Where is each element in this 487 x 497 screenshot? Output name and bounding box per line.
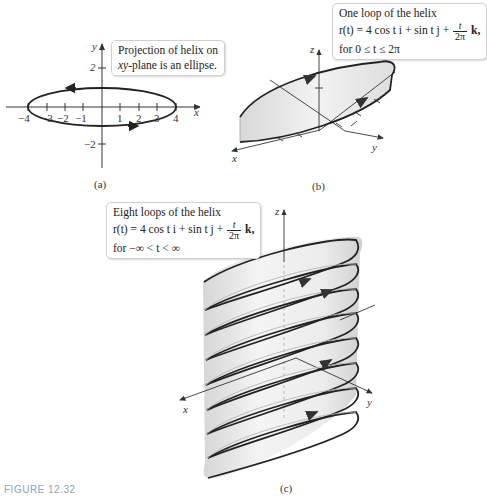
x-axis-label: x bbox=[183, 403, 188, 415]
z-axis-label: z bbox=[275, 205, 279, 217]
callout-c: Eight loops of the helix r(t) = 4 cos t … bbox=[106, 202, 261, 259]
eq-tail: k, bbox=[242, 223, 254, 235]
frac-den: 2π bbox=[227, 231, 241, 241]
callout-c-line1: Eight loops of the helix bbox=[113, 205, 254, 220]
fraction: t2π bbox=[227, 220, 241, 241]
eq-lhs: r(t) = 4 cos t i + sin t j + bbox=[113, 223, 226, 235]
figure-caption: FIGURE 12.32 bbox=[4, 484, 76, 495]
panel-c-label: (c) bbox=[280, 482, 292, 494]
callout-c-equation: r(t) = 4 cos t i + sin t j + t2π k, bbox=[113, 220, 254, 241]
y-axis-label: y bbox=[367, 396, 372, 408]
callout-c-line3: for −∞ < t < ∞ bbox=[113, 241, 254, 256]
